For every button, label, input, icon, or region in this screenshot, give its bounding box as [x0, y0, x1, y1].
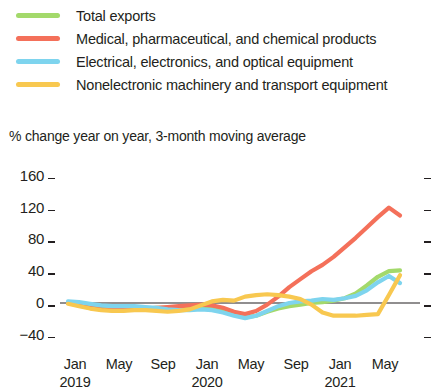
legend-label-nonelectronic-machinery-transport: Nonelectronic machinery and transport eq…: [76, 77, 387, 93]
x-axis-month-label: Jan: [51, 356, 99, 372]
legend-swatch-medical-pharma-chemical: [16, 36, 60, 41]
x-axis-year-label: 2020: [183, 374, 231, 390]
y-axis-tick-right: [424, 241, 431, 243]
legend-item-electrical-electronics-optical: Electrical, electronics, and optical equ…: [8, 50, 437, 73]
chart-canvas: [0, 150, 437, 350]
y-axis-tick-left: [48, 241, 55, 243]
y-axis-tick-left: [48, 337, 55, 339]
chart-legend: Total exports Medical, pharmaceutical, a…: [8, 4, 437, 96]
y-axis-tick-left: [48, 305, 55, 307]
legend-item-total-exports: Total exports: [8, 4, 437, 27]
y-axis-tick-right: [424, 210, 431, 212]
legend-label-electrical-electronics-optical: Electrical, electronics, and optical equ…: [76, 54, 353, 70]
legend-swatch-total-exports: [16, 13, 60, 18]
y-axis-tick-left: [48, 178, 55, 180]
y-axis-tick-label: 80: [2, 230, 44, 247]
x-axis-month-label: Sep: [272, 356, 320, 372]
legend-label-medical-pharma-chemical: Medical, pharmaceutical, and chemical pr…: [76, 31, 376, 47]
y-axis-tick-right: [424, 337, 431, 339]
x-axis-month-label: Jan: [316, 356, 364, 372]
y-axis-tick-right: [424, 273, 431, 275]
legend-item-nonelectronic-machinery-transport: Nonelectronic machinery and transport eq…: [8, 73, 437, 96]
x-axis-month-label: May: [95, 356, 143, 372]
y-axis-tick-left: [48, 273, 55, 275]
y-axis-tick-right: [424, 178, 431, 180]
y-axis-tick-label: 0: [2, 294, 44, 311]
legend-swatch-nonelectronic-machinery-transport: [16, 82, 60, 87]
x-axis-month-label: Sep: [139, 356, 187, 372]
y-axis-tick-right: [424, 305, 431, 307]
legend-item-medical-pharma-chemical: Medical, pharmaceutical, and chemical pr…: [8, 27, 437, 50]
x-axis-labels: Jan2019MaySepJan2020MaySepJan2021May: [0, 352, 437, 391]
y-axis-tick-label: 120: [2, 199, 44, 216]
x-axis-month-label: Jan: [183, 356, 231, 372]
y-axis-tick-left: [48, 210, 55, 212]
legend-swatch-electrical-electronics-optical: [16, 59, 60, 64]
y-axis-tick-label: 40: [2, 262, 44, 279]
legend-label-total-exports: Total exports: [76, 8, 156, 24]
x-axis-month-label: May: [227, 356, 275, 372]
y-axis-tick-label: −40: [2, 326, 44, 343]
x-axis-year-label: 2021: [316, 374, 364, 390]
chart-axis-caption: % change year on year, 3-month moving av…: [9, 128, 306, 144]
x-axis-month-label: May: [361, 356, 409, 372]
chart-plot-area: 16012080400−40: [0, 150, 437, 350]
y-axis-tick-label: 160: [2, 167, 44, 184]
x-axis-year-label: 2019: [51, 374, 99, 390]
